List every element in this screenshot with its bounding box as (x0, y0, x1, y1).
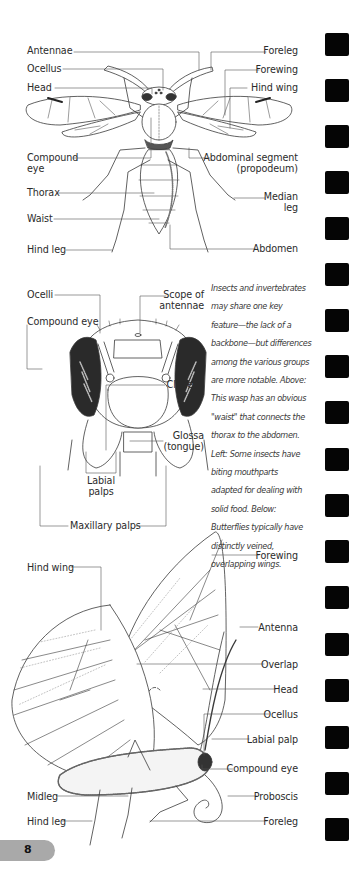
label-antennae: Antennae (27, 45, 72, 56)
edge-marker (325, 448, 349, 471)
label-ocellus-butterfly: Ocellus (264, 709, 298, 720)
edge-marker (325, 79, 349, 102)
edge-marker (325, 171, 349, 194)
label-glossa: Glossa (tongue) (164, 430, 204, 452)
edge-marker (325, 633, 349, 656)
label-hind-leg: Hind leg (27, 244, 66, 255)
label-compound-eye-head: Compound eye (27, 316, 98, 327)
edge-marker (325, 217, 349, 240)
edge-marker (325, 33, 349, 56)
label-head-butterfly: Head (273, 684, 298, 695)
wasp-head-illustration (68, 319, 208, 476)
label-labial-palps: Labial palps (80, 475, 122, 497)
edge-marker (325, 494, 349, 517)
label-hind-leg-butterfly: Hind leg (27, 816, 66, 827)
edge-marker (325, 263, 349, 286)
edge-marker (325, 309, 349, 332)
label-hind-wing: Hind wing (251, 82, 298, 93)
label-proboscis: Proboscis (254, 791, 298, 802)
label-waist: Waist (27, 213, 53, 224)
textbook-page: Antennae Ocellus Head Compound eye Thora… (0, 0, 358, 874)
edge-marker (325, 772, 349, 795)
label-abdomen: Abdomen (253, 243, 298, 254)
label-labial-palp: Labial palp (247, 734, 298, 745)
edge-marker (325, 355, 349, 378)
label-compound-eye-butterfly: Compound eye (227, 763, 298, 774)
label-hind-wing-butterfly: Hind wing (27, 562, 74, 573)
label-median-leg: Median leg (264, 191, 298, 213)
label-clypeus: Clypeus (167, 379, 204, 390)
page-number-tab: 8 (0, 840, 55, 861)
label-maxillary-palps: Maxillary palps (70, 520, 141, 531)
edge-marker (325, 540, 349, 563)
label-antenna: Antenna (258, 622, 298, 633)
label-foreleg: Foreleg (263, 45, 298, 56)
label-scope-of-antennae: Scope of antennae (159, 289, 204, 311)
label-midleg: Midleg (27, 791, 58, 802)
edge-marker (325, 726, 349, 749)
label-ocellus: Ocellus (27, 63, 61, 74)
edge-marker (325, 586, 349, 609)
edge-marker (325, 401, 349, 424)
label-forewing-butterfly: Forewing (255, 550, 298, 561)
label-head: Head (27, 82, 52, 93)
label-foreleg-butterfly: Foreleg (263, 816, 298, 827)
label-forewing: Forewing (255, 64, 298, 75)
label-thorax: Thorax (27, 187, 60, 198)
label-abdominal-segment: Abdominal segment (propodeum) (203, 152, 298, 174)
page-number: 8 (24, 843, 32, 856)
edge-marker (325, 679, 349, 702)
figure-caption: Insects and invertebrates may share one … (211, 279, 306, 574)
label-compound-eye: Compound eye (27, 152, 78, 174)
label-ocelli: Ocelli (27, 289, 53, 300)
edge-marker (325, 125, 349, 148)
label-overlap: Overlap (261, 659, 298, 670)
edge-marker (325, 818, 349, 841)
